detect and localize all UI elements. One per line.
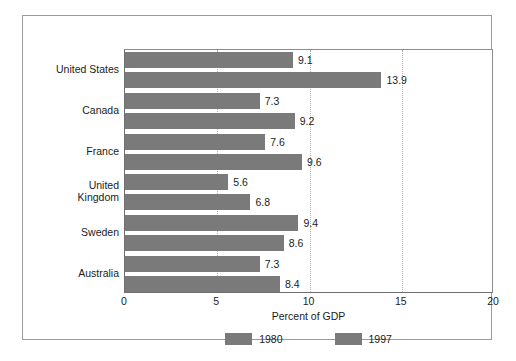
bar-value-label: 7.3 [265,96,280,107]
bar-1980-1[interactable] [125,93,260,109]
bar-1997-5[interactable] [125,276,280,292]
bar-value-label: 8.6 [289,238,304,249]
legend-label: 1997 [369,334,392,345]
legend-label: 1980 [259,334,282,345]
bar-1980-2[interactable] [125,134,265,150]
bar-1997-3[interactable] [125,194,250,210]
category-label-2: France [27,145,119,157]
bar-value-label: 5.6 [233,177,248,188]
bar-row: 9.1 [125,52,494,68]
bar-value-label: 7.6 [270,136,285,147]
x-axis-tick-labels: 05101520 [124,295,493,309]
chart-legend: 19801997 [124,330,493,348]
x-tick-label-10: 10 [303,295,315,307]
bar-1997-2[interactable] [125,154,302,170]
bar-row: 9.6 [125,154,494,170]
bar-row: 9.2 [125,113,494,129]
bar-1980-0[interactable] [125,52,293,68]
x-axis-title: Percent of GDP [124,310,493,322]
x-tick-label-5: 5 [213,295,219,307]
legend-item-1980[interactable]: 1980 [225,333,282,345]
legend-swatch-icon [225,333,252,345]
bar-row: 9.4 [125,215,494,231]
bar-1980-3[interactable] [125,174,228,190]
bar-value-label: 8.4 [285,278,300,289]
bar-row: 13.9 [125,72,494,88]
bar-value-label: 7.3 [265,258,280,269]
category-label-3: United Kingdom [27,179,119,203]
bar-row: 7.3 [125,93,494,109]
category-axis-labels: United StatesCanadaFranceUnited KingdomS… [23,49,119,293]
category-label-0: United States [27,63,119,75]
bar-1980-5[interactable] [125,256,260,272]
bar-1997-1[interactable] [125,113,295,129]
bar-1997-4[interactable] [125,235,284,251]
bar-row: 8.6 [125,235,494,251]
legend-swatch-icon [335,333,362,345]
bar-value-label: 9.4 [303,218,318,229]
category-label-4: Sweden [27,226,119,238]
bar-row: 6.8 [125,194,494,210]
bar-value-label: 9.1 [298,55,313,66]
bar-value-label: 6.8 [255,197,270,208]
bar-row: 5.6 [125,174,494,190]
bar-value-label: 13.9 [386,75,406,86]
x-tick-label-15: 15 [395,295,407,307]
bar-row: 7.6 [125,134,494,150]
bar-1997-0[interactable] [125,72,381,88]
x-tick-label-20: 20 [487,295,499,307]
bar-1980-4[interactable] [125,215,298,231]
plot-area: 9.113.97.39.27.69.65.66.89.48.67.38.4 [124,49,493,293]
bar-value-label: 9.6 [307,156,322,167]
category-label-5: Australia [27,267,119,279]
category-label-1: Canada [27,104,119,116]
bar-row: 8.4 [125,276,494,292]
bar-value-label: 9.2 [300,116,315,127]
legend-item-1997[interactable]: 1997 [335,333,392,345]
x-tick-label-0: 0 [121,295,127,307]
bar-row: 7.3 [125,256,494,272]
figure-frame: United StatesCanadaFranceUnited KingdomS… [22,15,492,340]
